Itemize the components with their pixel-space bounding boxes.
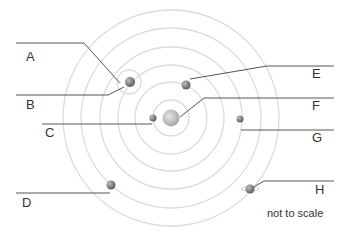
sun	[163, 110, 180, 127]
label-e: E	[312, 67, 321, 80]
label-a: A	[26, 50, 35, 63]
label-f: F	[312, 99, 320, 112]
planet-e	[182, 81, 191, 90]
label-g: G	[312, 131, 322, 144]
planet-d	[107, 181, 116, 190]
label-c: C	[45, 126, 54, 139]
label-d: D	[22, 196, 31, 209]
planet-g	[237, 116, 244, 123]
label-h: H	[315, 183, 324, 196]
scale-note: not to scale	[267, 208, 323, 219]
planet-a-moon	[118, 81, 121, 84]
leader-line-b	[16, 87, 124, 95]
planet-h	[246, 185, 255, 194]
solar-system-diagram	[0, 0, 345, 241]
label-b: B	[26, 98, 35, 111]
planet-b	[125, 77, 135, 87]
planet-c	[150, 115, 157, 122]
